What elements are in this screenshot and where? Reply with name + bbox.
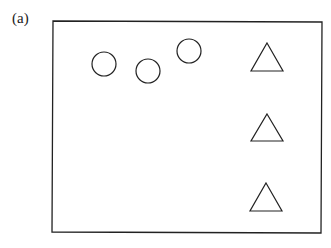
circle-shape-2	[136, 59, 160, 83]
triangle-group	[250, 43, 283, 211]
circle-group	[92, 39, 201, 83]
circle-shape-1	[92, 52, 116, 76]
triangle-shape-2	[251, 114, 283, 141]
frame-rectangle	[52, 21, 322, 233]
circle-shape-3	[177, 39, 201, 63]
diagram-canvas	[0, 0, 331, 248]
triangle-shape-3	[250, 183, 282, 211]
triangle-shape-1	[251, 43, 283, 71]
